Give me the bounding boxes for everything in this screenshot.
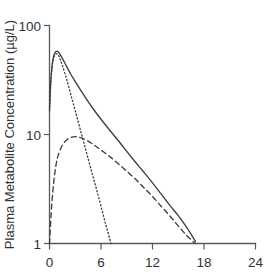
- series-rapid-phase-component: [50, 54, 111, 244]
- series-slow-phase-component: [50, 137, 196, 244]
- y-axis-title: Plasma Metabolite Concentration (µg/L): [2, 20, 17, 249]
- y-tick-label-1: 1: [33, 237, 41, 252]
- y-tick-label-100: 100: [18, 19, 41, 34]
- x-tick-label-0: 0: [46, 255, 54, 270]
- x-tick-label-12: 12: [145, 255, 160, 270]
- pharmacokinetic-plot: 100 10 1 0 6 12 18 24 Plasma Metabolite …: [0, 0, 273, 275]
- y-tick-label-10: 10: [26, 128, 41, 143]
- x-tick-label-6: 6: [97, 255, 105, 270]
- series-total-concentration: [50, 51, 196, 241]
- x-tick-label-18: 18: [196, 255, 211, 270]
- x-tick-label-24: 24: [248, 255, 264, 270]
- chart-figure: 100 10 1 0 6 12 18 24 Plasma Metabolite …: [0, 0, 273, 275]
